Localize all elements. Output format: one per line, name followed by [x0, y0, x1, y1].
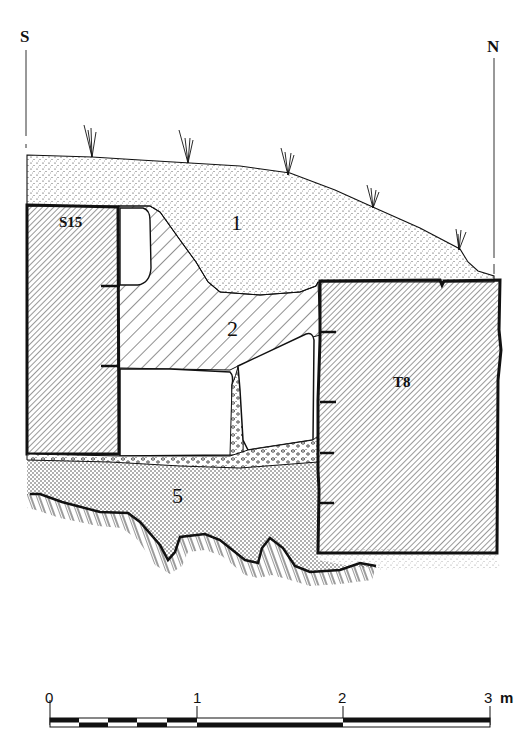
- stone-label-t8: T8: [393, 374, 411, 390]
- block-stone-left: [120, 369, 233, 456]
- scale-unit: m: [500, 689, 513, 706]
- layer-label-1: 1: [231, 210, 242, 235]
- scale-tick-1: 1: [193, 689, 201, 706]
- stone-label-s15: S15: [59, 214, 82, 230]
- scale-tick-2: 2: [338, 689, 346, 706]
- layer-label-2: 2: [227, 316, 238, 341]
- scale-bar: 0 1 2 3 m: [45, 689, 513, 727]
- orientation-label-south: S: [20, 27, 29, 46]
- orientation-label-north: N: [487, 37, 500, 56]
- orientation-south: S: [20, 27, 29, 148]
- scale-tick-0: 0: [45, 689, 53, 706]
- stone-t8: T8: [318, 280, 501, 553]
- layer-label-5: 5: [172, 483, 183, 508]
- orientation-north: N: [487, 37, 500, 274]
- stone-s15: S15: [27, 205, 120, 454]
- scale-tick-3: 3: [484, 689, 492, 706]
- archaeological-section-drawing: S N S15: [0, 0, 530, 754]
- cavity: [120, 208, 151, 285]
